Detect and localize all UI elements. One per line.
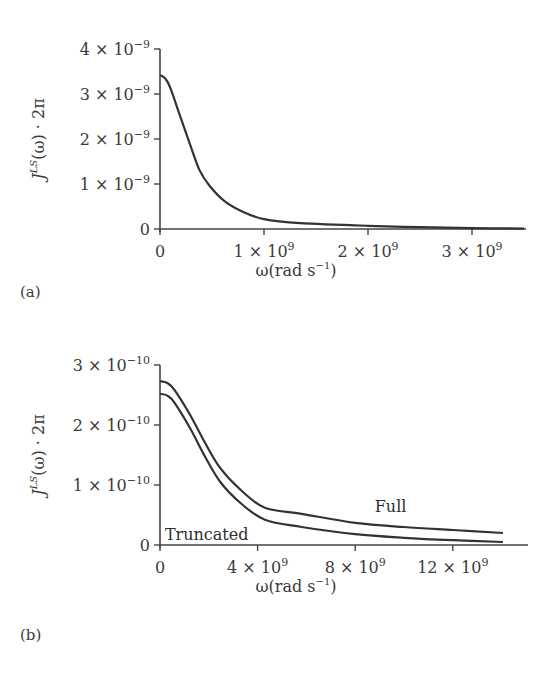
x-tick-mantissa: 2 × 10 [337, 242, 391, 261]
y-axis-title: JLS(ω) · 2π [28, 98, 48, 182]
panel-label-b: (b) [20, 626, 41, 644]
y-tick-mantissa: 2 × 10 [73, 416, 127, 435]
series-line-full [160, 381, 503, 533]
x-tick-exponent: 9 [392, 240, 399, 253]
y-tick-exponent: −9 [134, 38, 150, 51]
y-tick-label: 3 × 10−10 [73, 354, 150, 375]
y-tick-exponent: −10 [127, 414, 150, 427]
y-tick-label: 4 × 10−9 [80, 38, 150, 59]
x-tick-label: 8 × 109 [325, 556, 386, 577]
x-tick-exponent: 9 [379, 556, 386, 569]
x-axis-title: ω(rad s−1) [255, 260, 336, 280]
y-tick-mantissa: 0 [140, 220, 150, 239]
x-tick-label: 12 × 109 [417, 556, 488, 577]
x-tick-mantissa: 0 [155, 242, 165, 261]
y-tick-exponent: −10 [127, 354, 150, 367]
x-tick-label: 0 [155, 242, 165, 261]
y-tick-label: 2 × 10−10 [73, 414, 150, 435]
y-tick-exponent: −10 [127, 474, 150, 487]
x-tick-exponent: 9 [496, 240, 503, 253]
y-tick-label: 1 × 10−9 [80, 173, 150, 194]
x-tick-label: 2 × 109 [337, 240, 398, 261]
annotation-truncated: Truncated [165, 525, 249, 544]
x-tick-exponent: 9 [281, 556, 288, 569]
chart-panel-a: 01 × 10−92 × 10−93 × 10−94 × 10−901 × 10… [28, 38, 526, 280]
x-tick-label: 0 [155, 558, 165, 577]
x-tick-mantissa: 4 × 10 [227, 558, 281, 577]
x-tick-label: 3 × 109 [441, 240, 502, 261]
y-tick-mantissa: 1 × 10 [73, 476, 127, 495]
y-tick-exponent: −9 [134, 173, 150, 186]
y-tick-exponent: −9 [134, 128, 150, 141]
y-tick-mantissa: 1 × 10 [80, 175, 134, 194]
y-tick-label: 0 [140, 220, 150, 239]
x-tick-exponent: 9 [288, 240, 295, 253]
y-tick-label: 3 × 10−9 [80, 83, 150, 104]
x-axis-title: ω(rad s−1) [255, 576, 336, 596]
series-line-j-ls [160, 75, 524, 229]
panel-label-a: (a) [20, 283, 41, 301]
y-tick-mantissa: 0 [140, 536, 150, 555]
x-tick-mantissa: 0 [155, 558, 165, 577]
y-tick-exponent: −9 [134, 83, 150, 96]
y-tick-mantissa: 3 × 10 [80, 85, 134, 104]
x-tick-label: 1 × 109 [233, 240, 294, 261]
x-tick-mantissa: 1 × 10 [233, 242, 287, 261]
y-tick-mantissa: 2 × 10 [80, 130, 134, 149]
y-tick-label: 0 [140, 536, 150, 555]
y-tick-mantissa: 4 × 10 [80, 40, 134, 59]
x-tick-mantissa: 12 × 10 [417, 558, 481, 577]
y-tick-label: 2 × 10−9 [80, 128, 150, 149]
y-tick-mantissa: 3 × 10 [73, 356, 127, 375]
chart-panel-b: 01 × 10−102 × 10−103 × 10−1004 × 1098 × … [28, 354, 528, 596]
x-tick-mantissa: 8 × 10 [325, 558, 379, 577]
figure: 01 × 10−92 × 10−93 × 10−94 × 10−901 × 10… [0, 0, 556, 677]
y-axis-title: JLS(ω) · 2π [28, 414, 48, 498]
y-tick-label: 1 × 10−10 [73, 474, 150, 495]
annotation-full: Full [375, 497, 407, 516]
x-tick-label: 4 × 109 [227, 556, 288, 577]
x-tick-exponent: 9 [481, 556, 488, 569]
x-tick-mantissa: 3 × 10 [441, 242, 495, 261]
